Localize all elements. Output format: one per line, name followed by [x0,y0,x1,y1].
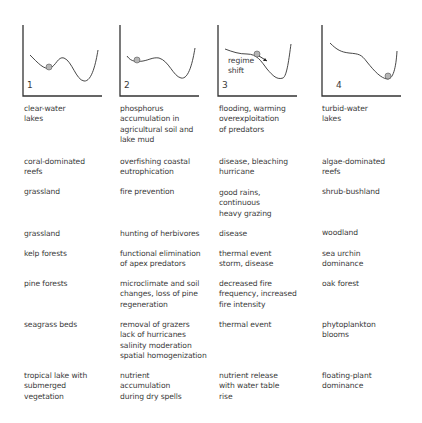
state-a-cell: grassland [24,229,60,239]
trigger-cell: disease [219,229,247,239]
state-b-cell: phytoplankton blooms [322,320,376,341]
trigger-cell: thermal event storm, disease [219,249,273,270]
state-a-cell: coral-dominated reefs [24,157,85,178]
stability-panel-1: 1 [22,18,104,100]
state-a-cell: grassland [24,187,60,197]
state-b-cell: shrub-bushland [322,187,380,197]
stability-landscape-graph-4 [321,18,403,100]
panel-number: 2 [124,80,130,90]
ball-icon [46,64,52,70]
driver-cell: functional elimination of apex predators [120,249,200,270]
stability-landscape-graph-1 [22,18,104,100]
state-a-cell: seagrass beds [24,320,77,330]
panel-number: 4 [336,80,342,90]
driver-cell: removal of grazers lack of hurricanes sa… [120,320,207,361]
state-a-cell: pine forests [24,279,67,289]
driver-cell: microclimate and soil changes, loss of p… [120,279,199,310]
state-b-cell: floating-plant dominance [322,371,372,392]
panel-number: 3 [222,80,228,90]
stability-panel-3: regime shift 3 [217,18,299,100]
driver-cell: hunting of herbivores [120,229,199,239]
state-a-cell: kelp forests [24,249,67,259]
driver-cell: phosphorus accumulation in agricultural … [120,104,193,145]
panel-number: 1 [27,80,33,90]
trigger-cell: disease, bleaching hurricane [219,157,288,178]
trigger-cell: thermal event [219,320,271,330]
regime-shift-label: regime shift [228,56,254,75]
trigger-cell: flooding, warming overexploitation of pr… [219,104,286,135]
driver-cell: nutrient accumulation during dry spells [120,371,182,402]
state-b-cell: algae-dominated reefs [322,157,385,178]
state-b-cell: woodland [322,228,358,238]
state-a-cell: clear-water lakes [24,104,66,125]
ball-icon [134,57,140,63]
state-b-cell: sea urchin dominance [322,249,363,270]
ball-icon [385,73,391,79]
stability-landscape-graph-2 [119,18,201,100]
stability-panel-2: 2 [119,18,201,100]
driver-cell: fire prevention [120,187,174,197]
trigger-cell: decreased fire frequency, increased fire… [219,279,297,310]
state-b-cell: turbid-water lakes [322,104,368,125]
driver-cell: overfishing coastal eutrophication [120,157,190,178]
trigger-cell: good rains, continuous heavy grazing [219,188,272,219]
stability-panel-4: 4 [321,18,403,100]
state-b-cell: oak forest [322,279,359,289]
trigger-cell: nutrient release with water table rise [219,371,279,402]
state-a-cell: tropical lake with submerged vegetation [24,371,87,402]
